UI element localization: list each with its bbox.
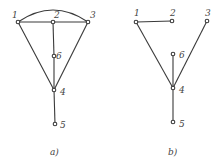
edge-a-2-6 xyxy=(53,22,54,56)
node-label-a-1: 1 xyxy=(12,10,18,20)
graph-diagram: 1 2 3 6 4 5 a) 1 2 3 6 4 5 b) xyxy=(0,0,220,162)
node-label-a-6: 6 xyxy=(56,51,62,61)
node-label-b-1: 1 xyxy=(134,8,140,18)
node-b-4 xyxy=(171,86,175,90)
node-b-2 xyxy=(170,19,174,23)
node-a-4 xyxy=(52,88,56,92)
edge-b-1-2 xyxy=(136,21,172,22)
edge-b-1-4 xyxy=(136,22,173,88)
node-label-b-4: 4 xyxy=(178,85,185,95)
caption-b: b) xyxy=(168,147,178,157)
graph-b: 1 2 3 6 4 5 b) xyxy=(134,8,211,157)
node-label-b-2: 2 xyxy=(169,8,176,18)
graph-a: 1 2 3 6 4 5 a) xyxy=(12,10,96,157)
node-a-3 xyxy=(86,20,90,24)
node-b-6 xyxy=(171,52,175,56)
node-a-5 xyxy=(53,122,57,126)
node-b-1 xyxy=(134,20,138,24)
node-label-a-5: 5 xyxy=(60,120,66,130)
node-label-a-3: 3 xyxy=(90,10,96,20)
node-a-2 xyxy=(51,20,55,24)
node-b-5 xyxy=(171,120,175,124)
node-label-a-2: 2 xyxy=(53,10,60,20)
caption-a: a) xyxy=(50,147,59,157)
node-label-b-3: 3 xyxy=(205,8,211,18)
node-b-3 xyxy=(205,19,209,23)
node-label-b-5: 5 xyxy=(179,119,185,129)
edge-a-1-4 xyxy=(18,22,54,90)
node-label-b-6: 6 xyxy=(179,50,185,60)
edge-a-4-5 xyxy=(54,90,55,124)
node-label-a-4: 4 xyxy=(59,87,66,97)
node-a-1 xyxy=(16,20,20,24)
